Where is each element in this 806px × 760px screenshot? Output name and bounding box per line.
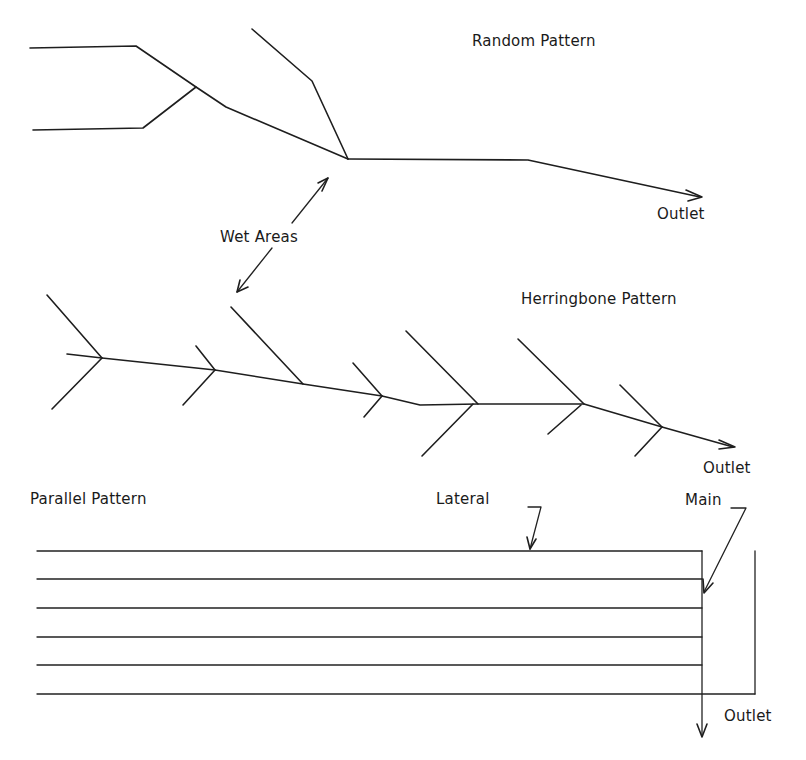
herringbone-pattern-network <box>47 295 735 456</box>
random-branch-upper-left <box>30 46 348 159</box>
herringbone-lateral-1-lower <box>52 358 102 409</box>
wet-areas-arrow-up <box>292 178 328 223</box>
herringbone-lateral-2-upper <box>196 346 215 370</box>
herringbone-main-line <box>67 354 733 447</box>
wet-areas-arrow-down <box>237 248 272 292</box>
random-branch-top <box>252 29 348 159</box>
herringbone-lateral-1-upper <box>47 295 102 358</box>
random-branch-lower-left <box>33 87 196 130</box>
herringbone-lateral-4-upper <box>353 363 382 396</box>
herringbone-lateral-5-upper <box>406 331 478 404</box>
parallel-pattern-title: Parallel Pattern <box>30 492 147 507</box>
herringbone-lateral-3-upper <box>231 307 303 384</box>
herringbone-pattern-title: Herringbone Pattern <box>521 292 677 307</box>
parallel-pattern-network <box>37 507 755 737</box>
random-main-line <box>348 159 700 197</box>
herringbone-lateral-6-lower <box>548 405 581 434</box>
herringbone-outlet-label: Outlet <box>703 461 751 476</box>
random-pattern-title: Random Pattern <box>472 34 596 49</box>
wet-areas-label: Wet Areas <box>220 230 298 245</box>
main-callout-leader <box>704 508 746 592</box>
parallel-outlet-label: Outlet <box>724 709 772 724</box>
main-callout-arrowhead-icon <box>703 579 713 593</box>
herringbone-lateral-4-lower <box>364 396 382 417</box>
random-outlet-label: Outlet <box>657 207 705 222</box>
random-pattern-network <box>30 29 702 201</box>
herringbone-lateral-2-lower <box>183 370 215 405</box>
lateral-label: Lateral <box>436 492 490 507</box>
herringbone-lateral-5-lower <box>422 404 473 456</box>
drainage-patterns-diagram <box>0 0 806 760</box>
herringbone-lateral-7-lower <box>635 427 662 456</box>
herringbone-lateral-6-upper <box>518 339 584 404</box>
main-label: Main <box>685 493 722 508</box>
